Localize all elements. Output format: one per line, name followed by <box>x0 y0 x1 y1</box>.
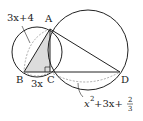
label-point-b: B <box>16 74 23 85</box>
label-point-d: D <box>121 74 129 85</box>
segment-ad <box>50 29 120 72</box>
label-arc-cd-frac-num: 2 <box>128 96 132 104</box>
label-segment-bc: 3x <box>31 78 43 89</box>
label-arc-cd-frac-den: 3 <box>128 105 132 113</box>
dashed-arc-cd <box>50 72 120 82</box>
label-point-c: C <box>47 74 55 85</box>
large-circle <box>48 10 128 90</box>
label-arc-cd-mid: +3x+ <box>94 98 123 109</box>
figure-svg: 3x+4 A B 3x C D x 2 +3x+ 2 3 <box>0 0 143 121</box>
geometry-figure: 3x+4 A B 3x C D x 2 +3x+ 2 3 <box>0 0 143 121</box>
label-arc-ab: 3x+4 <box>7 12 34 23</box>
label-point-a: A <box>44 13 53 24</box>
